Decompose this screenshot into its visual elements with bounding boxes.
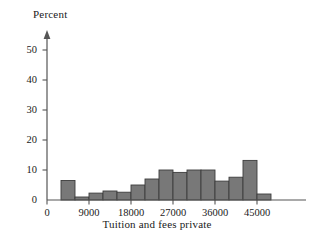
histogram-bar [131,185,145,200]
histogram-bar [61,181,75,201]
histogram-bar [103,191,117,200]
histogram-bar [187,170,201,200]
histogram-figure: Percent 01020304050 09000180002700036000… [0,0,314,242]
histogram-bar [215,181,229,200]
histogram-bar [159,170,173,200]
x-axis-tick-label: 36000 [191,207,239,218]
histogram-bar [89,193,103,200]
histogram-bar [257,194,271,200]
y-axis-arrow-icon [44,30,51,39]
y-axis-tick-label: 50 [13,44,37,55]
y-axis-tick-label: 30 [13,104,37,115]
y-axis-tick-label: 10 [13,164,37,175]
histogram-bar [145,179,159,200]
x-axis-tick-label: 9000 [65,207,113,218]
histogram-plot-area [0,0,314,242]
histogram-bar [201,170,215,200]
histogram-bar [243,160,257,200]
histogram-bar [117,192,131,200]
x-axis-tick-label: 0 [23,207,71,218]
histogram-bar [229,177,243,200]
y-axis-tick-label: 0 [13,194,37,205]
x-axis-label: Tuition and fees private [0,218,314,230]
y-axis-tick-label: 40 [13,74,37,85]
histogram-bar [173,172,187,200]
y-axis-tick-label: 20 [13,134,37,145]
x-axis-tick-label: 27000 [149,207,197,218]
x-axis-tick-label: 45000 [233,207,281,218]
histogram-bars [61,160,271,200]
x-axis-tick-label: 18000 [107,207,155,218]
